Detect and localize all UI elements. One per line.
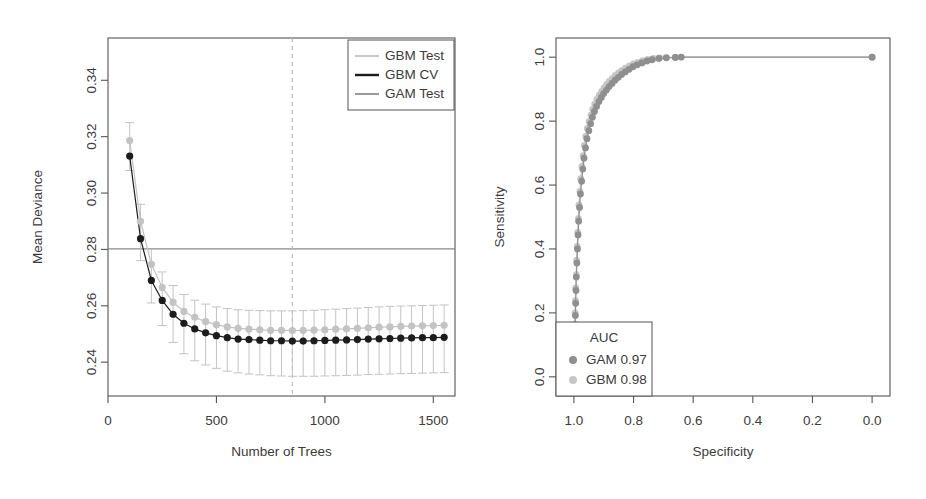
data-point <box>386 335 393 342</box>
data-point <box>213 332 220 339</box>
x-tick-label: 1000 <box>310 413 340 428</box>
deviance-plot: 0.240.260.280.300.320.34Mean Deviance050… <box>30 38 455 459</box>
data-point <box>430 334 437 341</box>
x-tick-label: 0.2 <box>803 413 822 428</box>
data-point <box>332 337 339 344</box>
x-tick-label: 500 <box>205 413 228 428</box>
data-point <box>869 54 876 61</box>
series-points-gbm-test <box>126 137 448 334</box>
x-axis-title: Specificity <box>693 444 754 459</box>
data-point <box>289 337 296 344</box>
data-point <box>581 155 588 162</box>
data-point <box>213 321 220 328</box>
y-axis-title: Mean Deviance <box>30 170 45 264</box>
data-point <box>300 327 307 334</box>
series-line-gbm-test <box>130 141 444 331</box>
data-point <box>655 55 662 62</box>
legend-label: GBM 0.98 <box>586 372 647 387</box>
data-point <box>578 178 585 185</box>
y-tick-label: 0.24 <box>84 349 99 376</box>
data-point <box>159 297 166 304</box>
data-point <box>576 204 583 211</box>
data-point <box>148 261 155 268</box>
data-point <box>574 246 581 253</box>
data-point <box>169 311 176 318</box>
data-point <box>310 326 317 333</box>
data-point <box>430 322 437 329</box>
x-tick-label: 0.0 <box>863 413 882 428</box>
data-point <box>397 323 404 330</box>
data-point <box>289 327 296 334</box>
data-point <box>375 335 382 342</box>
legend-title: AUC <box>590 330 619 345</box>
data-point <box>321 337 328 344</box>
data-point <box>245 336 252 343</box>
legend-label: GAM Test <box>385 86 444 101</box>
data-point <box>169 299 176 306</box>
data-point <box>386 323 393 330</box>
data-point <box>408 334 415 341</box>
data-point <box>343 336 350 343</box>
data-point <box>585 127 592 134</box>
y-tick-label: 0.26 <box>84 293 99 319</box>
y-tick-label: 0.30 <box>84 180 99 206</box>
data-point <box>589 114 596 121</box>
auc-legend: AUCGAM 0.97GBM 0.98 <box>556 322 652 396</box>
y-tick-label: 0.4 <box>532 239 547 258</box>
data-point <box>137 218 144 225</box>
data-point <box>672 54 679 61</box>
data-point <box>191 314 198 321</box>
data-point <box>148 277 155 284</box>
x-tick-label: 0.4 <box>743 413 762 428</box>
data-point <box>419 334 426 341</box>
data-point <box>235 325 242 332</box>
data-point <box>365 335 372 342</box>
data-point <box>577 191 584 198</box>
data-point <box>573 274 580 281</box>
data-point <box>180 308 187 315</box>
data-point <box>663 54 670 61</box>
data-point <box>343 325 350 332</box>
data-point <box>354 325 361 332</box>
data-point <box>191 325 198 332</box>
data-point <box>159 284 166 291</box>
y-tick-label: 0.28 <box>84 236 99 262</box>
data-point <box>575 232 582 239</box>
y-tick-label: 0.34 <box>84 67 99 94</box>
y-axis-title: Sensitivity <box>492 186 507 247</box>
data-point <box>278 327 285 334</box>
data-point <box>202 318 209 325</box>
data-point <box>300 337 307 344</box>
data-point <box>278 337 285 344</box>
y-axis: 0.240.260.280.300.320.34 <box>84 67 108 376</box>
data-point <box>573 287 580 294</box>
legend-label: GBM Test <box>385 48 444 63</box>
y-tick-label: 0.32 <box>84 124 99 150</box>
legend-label: GAM 0.97 <box>586 352 647 367</box>
x-axis-title: Number of Trees <box>231 444 332 459</box>
data-point <box>256 337 263 344</box>
data-point <box>365 324 372 331</box>
data-point <box>579 166 586 173</box>
data-point <box>224 323 231 330</box>
data-point <box>235 335 242 342</box>
data-point <box>126 137 133 144</box>
data-point <box>202 329 209 336</box>
data-point <box>584 135 591 142</box>
data-point <box>678 54 685 61</box>
x-axis: 0.00.20.40.60.81.0 <box>565 396 882 428</box>
data-point <box>572 300 579 307</box>
legend-label: GBM CV <box>385 67 438 82</box>
y-tick-label: 0.2 <box>532 304 547 323</box>
y-axis: 0.00.20.40.60.81.0 <box>532 48 556 386</box>
data-point <box>256 326 263 333</box>
x-tick-label: 0 <box>104 413 112 428</box>
x-tick-label: 0.6 <box>684 413 703 428</box>
data-point <box>321 326 328 333</box>
y-tick-label: 0.6 <box>532 176 547 195</box>
data-point <box>575 218 582 225</box>
data-point <box>441 334 448 341</box>
figure-svg: 0.240.260.280.300.320.34Mean Deviance050… <box>0 0 926 499</box>
data-point <box>408 322 415 329</box>
x-tick-label: 1500 <box>418 413 448 428</box>
